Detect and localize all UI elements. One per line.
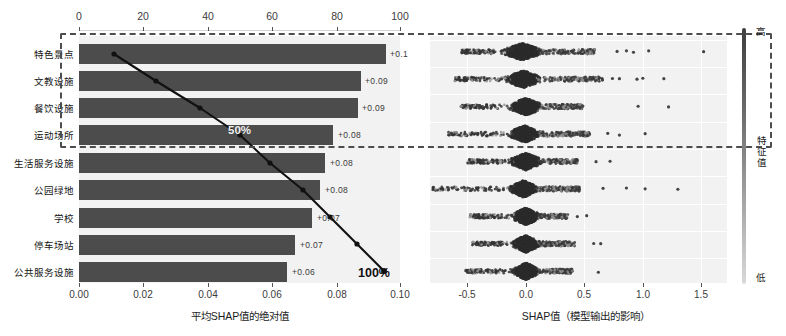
bottom-tick-mark xyxy=(208,283,209,287)
beeswarm-outlier xyxy=(611,77,614,80)
bottom-tick-mark xyxy=(272,283,273,287)
beeswarm-outlier xyxy=(662,77,665,80)
x-tick-label-5: 0.10 xyxy=(390,289,409,300)
right-panel-axis-title: SHAP值（模型输出的影响） xyxy=(522,308,651,323)
x-tick-label-1: 0.02 xyxy=(133,289,152,300)
beeswarm-outlier xyxy=(592,242,595,245)
beeswarm-outlier xyxy=(594,160,597,163)
beeswarm-outlier xyxy=(599,242,602,245)
beeswarm-row xyxy=(466,152,611,172)
top-tick-mark xyxy=(272,27,273,31)
bottom-axis-left: 0.00 0.02 0.04 0.06 0.08 0.10 平均SHAP值的绝对… xyxy=(0,283,420,336)
shap-x-tick-label-4: 1.5 xyxy=(694,289,708,300)
bar-6[interactable] xyxy=(79,208,312,228)
top-tick-label-60: 60 xyxy=(266,10,278,22)
top-tick-label-0: 0 xyxy=(76,10,82,22)
bar-value-6: +0.07 xyxy=(317,213,340,223)
beeswarm-outlier xyxy=(702,50,705,53)
bottom-tick-mark xyxy=(143,283,144,287)
bar-value-4: +0.08 xyxy=(330,158,353,168)
top-tick-mark xyxy=(143,27,144,31)
bar-2[interactable] xyxy=(79,98,358,118)
top-tick-label-40: 40 xyxy=(202,10,214,22)
colorbar-low-label: 低 xyxy=(756,270,766,284)
beeswarm-outlier xyxy=(647,49,650,52)
beeswarm-row xyxy=(471,234,602,253)
bar-5[interactable] xyxy=(79,180,320,200)
left-panel-axis-title: 平均SHAP值的绝对值 xyxy=(191,308,290,323)
beeswarm-outlier xyxy=(637,105,640,108)
bottom-tick-mark xyxy=(701,283,702,287)
bar-7[interactable] xyxy=(79,235,295,255)
top-tick-label-80: 80 xyxy=(331,10,343,22)
bottom-axis-right: -0.5 0.0 0.5 1.0 1.5 SHAP值（模型输出的影响） xyxy=(420,283,786,336)
category-label-0: 特色景点 xyxy=(0,47,74,61)
bar-8[interactable] xyxy=(79,262,287,282)
top-tick-mark xyxy=(208,27,209,31)
beeswarm-row xyxy=(460,42,705,61)
category-label-1: 文教设施 xyxy=(0,74,74,88)
beeswarm-outlier xyxy=(644,132,647,135)
beeswarm-outlier xyxy=(618,77,621,80)
bottom-tick-mark xyxy=(400,283,401,287)
bar-value-2: +0.09 xyxy=(362,103,385,113)
x-tick-label-3: 0.06 xyxy=(262,289,281,300)
colorbar-high-label: 高 xyxy=(756,24,766,38)
category-label-2: 餐饮设施 xyxy=(0,101,74,115)
beeswarm-outlier xyxy=(597,271,600,274)
shap-figure: 0 20 40 60 80 100 特色景点 文教设施 餐饮设施 运动场所 生活… xyxy=(0,0,786,336)
beeswarm-outlier xyxy=(625,49,628,52)
category-label-6: 学校 xyxy=(0,211,74,225)
beeswarm-outlier xyxy=(576,215,579,218)
bottom-tick-mark xyxy=(584,283,585,287)
bottom-tick-mark xyxy=(526,283,527,287)
colorbar-title: 特征值 xyxy=(756,135,768,168)
bar-value-3: +0.08 xyxy=(338,130,361,140)
cumulative-annotation-100: 100% xyxy=(358,266,390,280)
feature-value-colorbar xyxy=(742,28,746,284)
bar-3[interactable] xyxy=(79,125,333,145)
beeswarm-outlier xyxy=(641,77,644,80)
beeswarm-row xyxy=(431,179,679,198)
bar-value-8: +0.06 xyxy=(292,267,315,277)
bar-4[interactable] xyxy=(79,153,325,173)
shap-x-tick-label-1: 0.0 xyxy=(519,289,533,300)
category-label-8: 公共服务设施 xyxy=(0,265,74,279)
beeswarm-outlier xyxy=(644,187,647,190)
bottom-tick-mark xyxy=(79,283,80,287)
bar-value-0: +0.1 xyxy=(390,49,408,59)
beeswarm-outlier xyxy=(667,105,670,108)
top-tick-mark xyxy=(79,27,80,31)
beeswarm-outlier xyxy=(606,132,609,135)
bar-1[interactable] xyxy=(79,71,361,91)
category-label-7: 停车场站 xyxy=(0,238,74,252)
cumulative-annotation-50: 50% xyxy=(228,124,251,136)
top-tick-label-20: 20 xyxy=(137,10,149,22)
bar-value-1: +0.09 xyxy=(365,76,388,86)
beeswarm-row xyxy=(469,207,589,226)
top-axis: 0 20 40 60 80 100 xyxy=(0,0,786,36)
bar-value-7: +0.07 xyxy=(300,240,323,250)
bottom-tick-mark xyxy=(643,283,644,287)
beeswarm-outlier xyxy=(615,50,618,53)
beeswarm-outlier xyxy=(625,186,628,189)
bottom-tick-mark xyxy=(337,283,338,287)
beeswarm-outlier xyxy=(676,188,679,191)
bottom-tick-mark xyxy=(467,283,468,287)
beeswarm-outlier xyxy=(608,160,611,163)
beeswarm-scatter[interactable] xyxy=(430,36,727,283)
shap-x-tick-label-2: 0.5 xyxy=(577,289,591,300)
top-tick-mark xyxy=(337,27,338,31)
beeswarm-outlier xyxy=(632,51,635,54)
shap-x-tick-label-0: -0.5 xyxy=(458,289,475,300)
x-tick-label-0: 0.00 xyxy=(69,289,88,300)
category-label-3: 运动场所 xyxy=(0,128,74,142)
category-label-4: 生活服务设施 xyxy=(0,156,74,170)
bar-0[interactable] xyxy=(79,44,386,64)
top-tick-mark xyxy=(400,27,401,31)
beeswarm-outlier xyxy=(635,78,638,81)
beeswarm-outlier xyxy=(601,187,604,190)
beeswarm-row xyxy=(453,70,665,89)
shap-x-tick-label-3: 1.0 xyxy=(636,289,650,300)
beeswarm-row xyxy=(464,262,600,281)
